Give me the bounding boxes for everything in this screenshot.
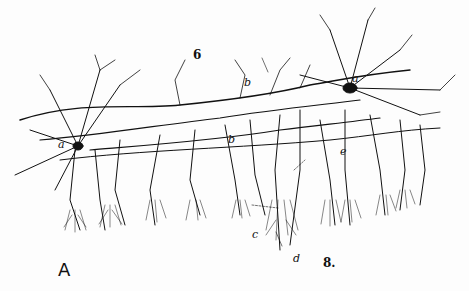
label-a-right: a (352, 72, 359, 85)
neuron-illustration: 6 a a b b e c d 8. A (0, 0, 469, 291)
label-c: c (252, 228, 258, 241)
label-b-mid: b (228, 133, 235, 146)
panel-label: A (58, 259, 70, 280)
label-eight: 8. (323, 256, 336, 270)
label-d: d (293, 252, 300, 265)
label-b-top: b (244, 76, 251, 89)
label-e: e (340, 145, 347, 158)
label-six: 6 (193, 48, 201, 62)
label-a-left: a (58, 138, 65, 151)
